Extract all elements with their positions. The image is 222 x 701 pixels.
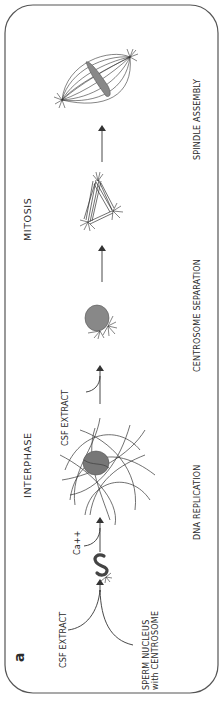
interphase-nucleus-icon <box>60 418 155 525</box>
phase-label-interphase: INTERPHASE <box>22 432 33 498</box>
bipolar-spindle-icon <box>54 49 138 108</box>
csf-extract-arrow <box>86 368 100 404</box>
centrosome-nucleus-icon <box>85 305 117 339</box>
converging-arrow <box>68 582 133 645</box>
calcium-label: Ca++ <box>73 530 82 555</box>
csf-extract-label-2: CSF EXTRACT <box>61 390 70 446</box>
with-centrosome-label: with CENTROSOME <box>151 611 160 690</box>
panel-label: a <box>11 653 27 662</box>
figure-border <box>5 5 218 693</box>
stage-label-centrosome-separation: CENTROSOME SEPARATION <box>193 259 202 372</box>
csf-extract-label-1: CSF EXTRACT <box>59 612 68 668</box>
stage-label-spindle-assembly: SPINDLE ASSEMBLY <box>193 79 202 160</box>
cell-cycle-diagram: a INTERPHASE MITOSIS CSF EXTRACT SPERM N… <box>0 0 222 701</box>
sperm-nucleus-label: SPERM NUCLEUS <box>142 620 151 690</box>
calcium-arrow <box>84 520 100 552</box>
sperm-nucleus-icon <box>95 555 112 583</box>
separated-asters-icon <box>80 172 123 231</box>
phase-label-mitosis: MITOSIS <box>22 198 33 241</box>
stage-label-dna-replication: DNA REPLICATION <box>193 465 202 540</box>
